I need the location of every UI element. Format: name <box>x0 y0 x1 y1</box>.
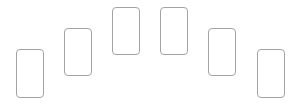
card-2 <box>64 28 92 76</box>
card-6 <box>257 49 285 98</box>
card-3 <box>112 7 140 55</box>
card-arc-diagram <box>0 0 297 106</box>
card-5 <box>208 28 236 76</box>
card-4 <box>160 7 188 55</box>
card-1 <box>16 49 44 98</box>
